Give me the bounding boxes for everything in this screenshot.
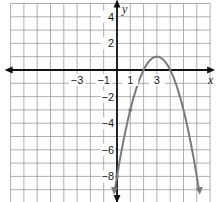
- y-tick-label: −4: [101, 117, 114, 129]
- x-axis-label: x: [207, 73, 214, 87]
- x-axis-left-arrow-icon: [5, 67, 13, 74]
- y-tick-label: −6: [101, 144, 114, 156]
- x-tick-label: 3: [154, 74, 160, 86]
- y-tick-label: −2: [101, 91, 114, 103]
- y-axis-label: y: [121, 2, 128, 16]
- x-tick-label: −1: [97, 74, 110, 86]
- curve-point: [128, 108, 132, 112]
- parabola-graph: −3−11342−2−4−6−8xy: [0, 0, 216, 202]
- x-tick-label: 1: [127, 74, 133, 86]
- y-tick-label: 2: [108, 37, 114, 49]
- x-tick-label: −3: [71, 74, 84, 86]
- y-tick-label: −8: [101, 170, 114, 182]
- curve-point: [115, 174, 119, 178]
- y-tick-label: 4: [108, 11, 114, 23]
- y-axis-down-arrow-icon: [114, 195, 121, 202]
